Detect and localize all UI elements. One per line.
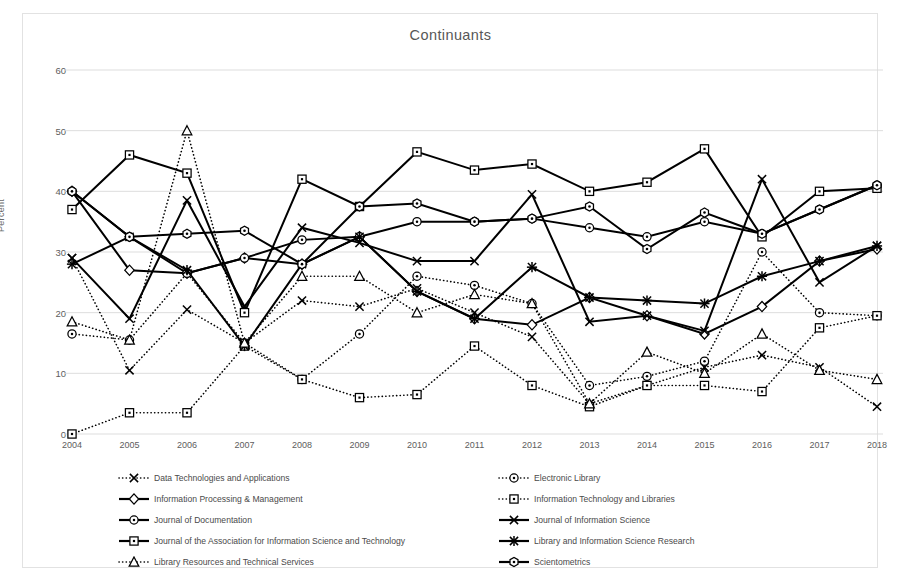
legend-row: Library Resources and Technical Services… — [118, 550, 858, 574]
x-tick-2016: 2016 — [739, 440, 785, 450]
diamond-solid-icon — [118, 493, 150, 505]
x-dotted-icon — [118, 472, 150, 484]
y-axis-title: Percent — [0, 199, 6, 232]
circle-solid-icon — [118, 514, 150, 526]
x-tick-2013: 2013 — [567, 440, 613, 450]
legend-label: Journal of Documentation — [154, 515, 252, 526]
chart-legend: Data Technologies and ApplicationsElectr… — [118, 466, 858, 562]
star-solid-icon — [498, 535, 530, 547]
legend-label: Library Resources and Technical Services — [154, 557, 314, 568]
series-3 — [68, 312, 881, 439]
x-tick-2012: 2012 — [509, 440, 555, 450]
x-tick-2018: 2018 — [854, 440, 900, 450]
x-tick-2017: 2017 — [797, 440, 843, 450]
y-tick-50: 50 — [26, 125, 66, 136]
legend-label: Data Technologies and Applications — [154, 473, 290, 484]
chart-title: Continuants — [0, 27, 901, 43]
square-dotted-icon — [498, 493, 530, 505]
legend-label: Journal of Information Science — [534, 515, 650, 526]
y-tick-10: 10 — [26, 368, 66, 379]
x-tick-2010: 2010 — [394, 440, 440, 450]
x-tick-2015: 2015 — [682, 440, 728, 450]
legend-label: Library and Information Science Research — [534, 536, 695, 547]
legend-item-library-resources-and-technical-services[interactable]: Library Resources and Technical Services — [118, 550, 498, 574]
x-tick-2005: 2005 — [107, 440, 153, 450]
x-tick-2014: 2014 — [624, 440, 670, 450]
chart-svg — [72, 70, 877, 434]
y-tick-0: 0 — [26, 429, 66, 440]
x-tick-2008: 2008 — [279, 440, 325, 450]
hex-solid-icon — [498, 556, 530, 568]
legend-label: Scientometrics — [534, 557, 590, 568]
x-tick-2006: 2006 — [164, 440, 210, 450]
y-tick-30: 30 — [26, 247, 66, 258]
legend-label: Electronic Library — [534, 473, 600, 484]
series-4 — [68, 181, 881, 277]
x-tick-2011: 2011 — [452, 440, 498, 450]
x-axis-tick-labels: 2004200520062007200820092010201120122013… — [72, 440, 877, 456]
legend-label: Information Processing & Management — [154, 494, 303, 505]
legend-label: Information Technology and Libraries — [534, 494, 675, 505]
plot-area — [72, 70, 877, 434]
triangle-dotted-icon — [118, 556, 150, 568]
y-tick-60: 60 — [26, 65, 66, 76]
y-axis-tick-labels: 0102030405060 — [22, 70, 66, 434]
legend-item-scientometrics[interactable]: Scientometrics — [498, 550, 858, 574]
legend-label: Journal of the Association for Informati… — [154, 536, 405, 547]
x-tick-2009: 2009 — [337, 440, 383, 450]
x-solid-icon — [498, 514, 530, 526]
x-tick-2004: 2004 — [49, 440, 95, 450]
circle-dotted-icon — [498, 472, 530, 484]
y-tick-40: 40 — [26, 186, 66, 197]
x-tick-2007: 2007 — [222, 440, 268, 450]
y-tick-20: 20 — [26, 307, 66, 318]
square-solid-icon — [118, 535, 150, 547]
